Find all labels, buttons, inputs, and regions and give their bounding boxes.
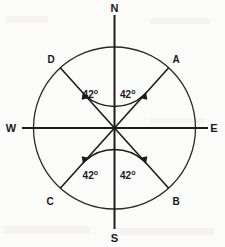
angle-label-lower-right-degree: o [131, 169, 135, 176]
angle-label-lower-left-degree: o [94, 169, 98, 176]
ray-endpoint-label-d: D [47, 54, 54, 65]
cardinal-label-west: W [6, 122, 17, 134]
angle-label-lower-left-value: 42 [83, 170, 95, 181]
cardinal-label-south: S [111, 232, 118, 244]
cardinal-label-east: E [210, 122, 217, 134]
ray-endpoint-label-b: B [172, 196, 179, 207]
ray-endpoint-label-a: A [172, 54, 179, 65]
angle-label-lower-left: 42o [83, 169, 98, 181]
svg-text:42o: 42o [120, 88, 135, 100]
svg-text:42o: 42o [120, 169, 135, 181]
angle-label-upper-left-degree: o [94, 88, 98, 95]
ray-endpoint-label-c: C [46, 196, 53, 207]
angle-label-lower-right-value: 42 [120, 170, 132, 181]
cardinal-label-north: N [111, 2, 119, 14]
svg-text:42o: 42o [83, 88, 98, 100]
angle-label-upper-right-degree: o [131, 88, 135, 95]
compass-diagram-figure: N S W E A B C D 42o 42o 42o 42o [0, 0, 225, 247]
svg-text:42o: 42o [83, 169, 98, 181]
angle-label-upper-left-value: 42 [83, 89, 95, 100]
angle-label-upper-right: 42o [120, 88, 135, 100]
angle-label-lower-right: 42o [120, 169, 135, 181]
compass-svg-canvas: N S W E A B C D 42o 42o 42o 42o [0, 0, 225, 247]
angle-label-upper-left: 42o [83, 88, 98, 100]
angle-label-upper-right-value: 42 [120, 89, 132, 100]
